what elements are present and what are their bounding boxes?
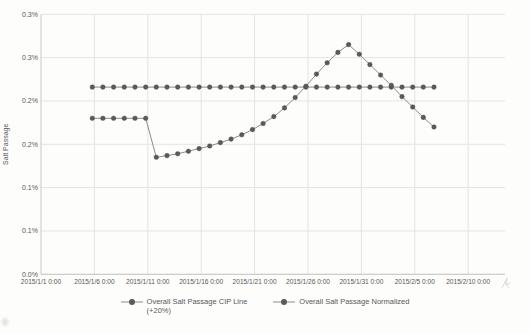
data-point-marker (410, 105, 415, 110)
data-point-marker (293, 95, 298, 100)
data-point-marker (336, 50, 341, 55)
legend-label-cip-line-2: (+20%) (147, 306, 248, 315)
data-point-marker (368, 62, 373, 67)
y-axis-title: Salt Passage (2, 124, 10, 165)
data-point-marker (175, 152, 180, 157)
data-point-marker (410, 85, 415, 90)
x-axis-tick-label: 2015/1/11 0:00 (126, 278, 170, 285)
x-axis-tick-label: 2015/2/5 0:00 (395, 278, 436, 285)
data-point-marker (111, 85, 116, 90)
line-marker-icon (121, 298, 143, 306)
data-point-marker (143, 85, 148, 90)
y-axis-tick-label: 0.2% (22, 97, 38, 104)
data-point-marker (378, 85, 383, 90)
data-point-marker (122, 85, 127, 90)
data-point-marker (229, 137, 234, 142)
data-point-marker (261, 85, 266, 90)
data-point-marker (314, 85, 319, 90)
data-point-marker (325, 85, 330, 90)
data-point-marker (272, 114, 277, 119)
salt-passage-chart: 0.3%0.3%0.2%0.2%0.1%0.1%0.0%2015/1/1 0:0… (0, 0, 530, 296)
data-point-marker (293, 85, 298, 90)
y-axis-tick-label: 0.2% (22, 141, 38, 148)
data-point-marker (154, 155, 159, 160)
x-axis-tick-label: 2015/1/21 0:00 (233, 278, 277, 285)
y-axis-tick-label: 0.0% (22, 271, 38, 278)
x-axis-tick-label: 2015/1/31 0:00 (339, 278, 383, 285)
legend-label-normalized: Overall Salt Passage Normalized (299, 297, 409, 306)
data-point-marker (133, 116, 138, 121)
data-point-marker (154, 85, 159, 90)
x-axis-tick-label: 2015/1/26 0:00 (286, 278, 330, 285)
data-point-marker (357, 85, 362, 90)
data-point-marker (421, 115, 426, 120)
pen-mark-artifact (496, 276, 516, 292)
data-point-marker (197, 85, 202, 90)
data-point-marker (101, 116, 106, 121)
data-point-marker (143, 116, 148, 121)
data-point-marker (368, 85, 373, 90)
data-point-marker (111, 116, 116, 121)
data-point-marker (218, 85, 223, 90)
data-point-marker (250, 127, 255, 132)
data-point-marker (240, 85, 245, 90)
data-point-marker (165, 85, 170, 90)
chart-page: 0.3%0.3%0.2%0.2%0.1%0.1%0.0%2015/1/1 0:0… (0, 0, 530, 334)
data-point-marker (282, 106, 287, 111)
data-point-marker (400, 85, 405, 90)
data-point-marker (400, 94, 405, 99)
x-axis-tick-label: 2015/1/1 0:00 (21, 278, 62, 285)
data-point-marker (421, 85, 426, 90)
data-point-marker (207, 144, 212, 149)
data-point-marker (282, 85, 287, 90)
data-point-marker (378, 73, 383, 78)
data-point-marker (186, 149, 191, 154)
line-marker-icon (273, 298, 295, 306)
data-point-marker (101, 85, 106, 90)
x-axis-tick-label: 2015/1/6 0:00 (74, 278, 115, 285)
data-point-marker (346, 42, 351, 47)
data-point-marker (122, 116, 127, 121)
data-point-marker (304, 84, 309, 89)
legend-item-normalized: Overall Salt Passage Normalized (273, 297, 409, 306)
data-point-marker (133, 85, 138, 90)
x-axis-tick-label: 2015/2/10 0:00 (446, 278, 490, 285)
chart-legend: Overall Salt Passage CIP Line (+20%) Ove… (0, 297, 530, 315)
data-point-marker (229, 85, 234, 90)
data-point-marker (218, 140, 223, 145)
data-point-marker (389, 83, 394, 88)
data-point-marker (272, 85, 277, 90)
data-point-marker (175, 85, 180, 90)
data-point-marker (314, 72, 319, 77)
y-axis-tick-label: 0.3% (22, 54, 38, 61)
data-point-marker (197, 146, 202, 151)
data-point-marker (336, 85, 341, 90)
data-point-marker (250, 85, 255, 90)
y-axis-tick-label: 0.1% (22, 184, 38, 191)
legend-label-cip-line-1: Overall Salt Passage CIP Line (147, 297, 248, 306)
data-point-marker (186, 85, 191, 90)
data-point-marker (325, 61, 330, 66)
data-point-marker (432, 85, 437, 90)
data-point-marker (432, 125, 437, 130)
data-point-marker (207, 85, 212, 90)
data-point-marker (90, 85, 95, 90)
data-point-marker (90, 116, 95, 121)
y-axis-tick-label: 0.1% (22, 227, 38, 234)
data-point-marker (357, 52, 362, 57)
data-point-marker (346, 85, 351, 90)
data-point-marker (261, 121, 266, 126)
data-point-marker (165, 153, 170, 158)
scan-smudge-artifact (0, 316, 10, 328)
y-axis-tick-label: 0.3% (22, 11, 38, 18)
data-point-marker (240, 133, 245, 138)
x-axis-tick-label: 2015/1/16 0:00 (179, 278, 223, 285)
legend-item-cip-line: Overall Salt Passage CIP Line (+20%) (121, 297, 248, 315)
